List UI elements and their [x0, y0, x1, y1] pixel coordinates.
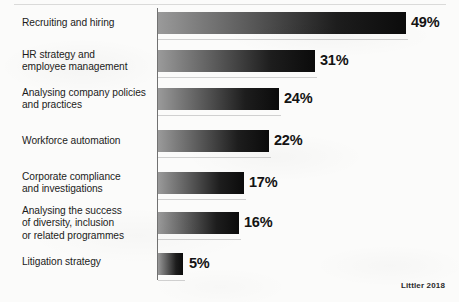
bar-value-label: 31% — [320, 52, 348, 68]
bar-fill — [158, 12, 406, 34]
bar-track — [158, 253, 183, 275]
bar-chart: Recruiting and hiring 49% HR strategy an… — [0, 0, 459, 302]
bar-row[interactable]: Analysing company policies and practices… — [0, 84, 459, 116]
bar-value-label: 22% — [274, 132, 302, 148]
bar-track — [158, 212, 239, 234]
bar-fill — [158, 253, 183, 275]
bar-row[interactable]: Litigation strategy 5% — [0, 249, 459, 281]
bar-fill — [158, 50, 315, 72]
chart-top-rule — [14, 4, 446, 5]
bar-category-label: Analysing the success of diversity, incl… — [22, 205, 150, 242]
bar-category-label: Litigation strategy — [22, 256, 150, 268]
bar-value-label: 16% — [244, 214, 272, 230]
bar-track — [158, 88, 279, 110]
bar-row[interactable]: Analysing the success of diversity, incl… — [0, 208, 459, 240]
source-attribution: Littler 2018 — [401, 281, 445, 290]
bar-category-label: Analysing company policies and practices — [22, 87, 150, 112]
bar-value-label: 24% — [284, 90, 312, 106]
bar-category-label: HR strategy and employee management — [22, 49, 150, 74]
bar-track — [158, 130, 269, 152]
bar-underline — [158, 280, 185, 281]
bar-value-label: 5% — [189, 255, 210, 271]
bar-fill — [158, 88, 279, 110]
bar-value-label: 49% — [411, 14, 439, 30]
bar-underline — [158, 239, 241, 240]
bar-track — [158, 172, 244, 194]
bar-track — [158, 50, 315, 72]
bar-underline — [158, 199, 246, 200]
bar-fill — [158, 212, 239, 234]
bar-row[interactable]: HR strategy and employee management 31% — [0, 46, 459, 78]
bar-underline — [158, 115, 281, 116]
bar-underline — [158, 39, 408, 40]
bar-underline — [158, 77, 317, 78]
bar-row[interactable]: Recruiting and hiring 49% — [0, 8, 459, 40]
bar-category-label: Corporate compliance and investigations — [22, 171, 150, 196]
bar-fill — [158, 130, 269, 152]
bar-track — [158, 12, 406, 34]
bar-row[interactable]: Workforce automation 22% — [0, 126, 459, 158]
bar-fill — [158, 172, 244, 194]
bar-row[interactable]: Corporate compliance and investigations … — [0, 168, 459, 200]
bar-category-label: Recruiting and hiring — [22, 17, 150, 29]
bar-category-label: Workforce automation — [22, 135, 150, 147]
bar-underline — [158, 157, 271, 158]
bar-value-label: 17% — [249, 174, 277, 190]
